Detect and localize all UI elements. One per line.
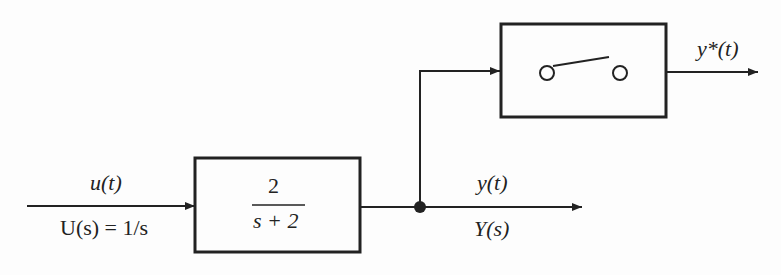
block-diagram: u(t) U(s) = 1/s 2 s + 2 y(t) Y(s) y*(t) — [0, 0, 781, 275]
sampler-block — [501, 24, 666, 117]
input-laplace-label: U(s) = 1/s — [60, 215, 148, 241]
switch-contact-left-icon — [540, 66, 554, 80]
switch-contact-right-icon — [613, 66, 627, 80]
output-laplace-label: Y(s) — [474, 216, 509, 242]
sampler-output-label: y*(t) — [697, 36, 739, 62]
switch-lever-icon — [553, 57, 609, 66]
output-time-label: y(t) — [477, 170, 508, 196]
tf-denominator: s + 2 — [253, 208, 298, 234]
input-time-label: u(t) — [90, 170, 122, 196]
tf-numerator: 2 — [268, 173, 279, 199]
